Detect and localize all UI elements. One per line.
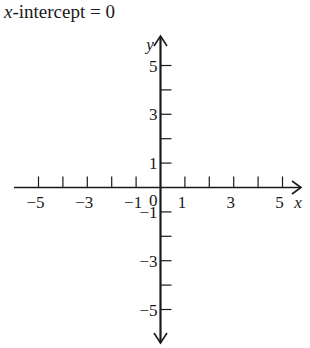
- x-tick-label: 3: [226, 193, 235, 212]
- y-tick-label: 1: [149, 154, 158, 173]
- x-tick-label: 1: [178, 193, 187, 212]
- x-axis-label: x: [293, 193, 302, 212]
- y-tick-label: −3: [139, 252, 157, 271]
- origin-label: 0: [149, 191, 158, 210]
- y-tick-label: 3: [149, 105, 158, 124]
- axes: [14, 36, 301, 343]
- y-tick-label: 5: [149, 57, 158, 76]
- tick-labels: −5−3−1135531−1−3−50xy: [26, 35, 302, 320]
- x-tick-label: −3: [75, 193, 93, 212]
- x-tick-label: 5: [275, 193, 284, 212]
- y-tick-label: −5: [139, 301, 157, 320]
- y-axis-label: y: [144, 35, 154, 54]
- x-tick-label: −5: [26, 193, 44, 212]
- coordinate-plane: −5−3−1135531−1−3−50xy: [0, 0, 310, 348]
